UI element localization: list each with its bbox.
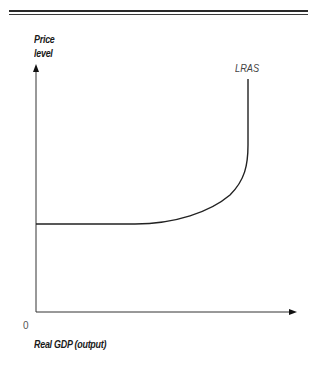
origin-label: 0 [23,320,29,331]
x-axis-label: Real GDP (output) [34,337,106,351]
chart-plot-area [0,0,319,368]
x-axis-arrow-icon [289,309,297,315]
lras-curve [36,79,248,224]
y-axis-arrow-icon [33,64,39,72]
